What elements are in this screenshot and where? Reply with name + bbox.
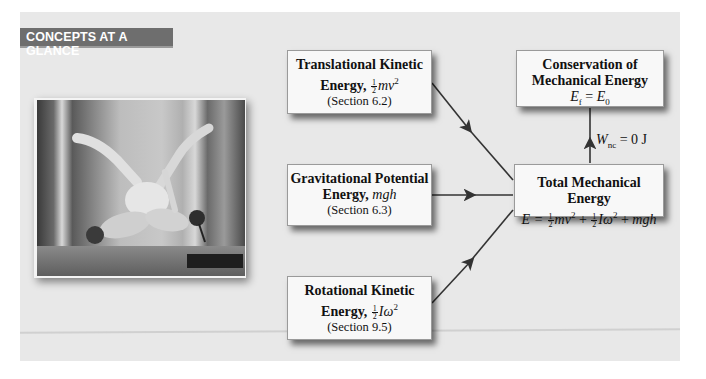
- gravitational-potential-energy-box: Gravitational Potential Energy, mgh (Sec…: [287, 164, 432, 226]
- rotational-title-line2: Energy, 12Iω2: [288, 299, 431, 320]
- rotational-kinetic-energy-box: Rotational Kinetic Energy, 12Iω2 (Sectio…: [287, 276, 432, 340]
- arrow-translational: [432, 83, 468, 128]
- rotational-title-line1: Rotational Kinetic: [288, 283, 431, 299]
- translational-kinetic-energy-box: Translational Kinetic Energy, 12mv2 (Sec…: [287, 50, 432, 114]
- conservation-of-mechanical-energy-box: Conservation of Mechanical Energy Ef = E…: [516, 50, 664, 107]
- total-formula: E = 12mv2 + 12Iω2 + mgh: [515, 207, 663, 228]
- translational-title-line1: Translational Kinetic: [288, 57, 431, 73]
- gravitational-section-ref: (Section 6.3): [288, 203, 431, 218]
- conservation-formula: Ef = E0: [517, 89, 663, 110]
- conservation-title-line1: Conservation of: [517, 57, 663, 73]
- translational-title-line2: Energy, 12mv2: [288, 73, 431, 94]
- gravitational-title-line1: Gravitational Potential: [288, 171, 431, 187]
- total-mechanical-energy-box: Total Mechanical Energy E = 12mv2 + 12Iω…: [514, 164, 664, 217]
- total-title: Total Mechanical Energy: [515, 175, 663, 207]
- work-nonconservative-label: Wnc = 0 J: [596, 132, 647, 150]
- translational-section-ref: (Section 6.2): [288, 94, 431, 109]
- one-half-fraction: 12: [371, 79, 377, 94]
- one-half-fraction: 12: [372, 305, 378, 320]
- rotational-section-ref: (Section 9.5): [288, 320, 431, 335]
- conservation-title-line2: Mechanical Energy: [517, 73, 663, 89]
- gravitational-title-line2: Energy, mgh: [288, 187, 431, 203]
